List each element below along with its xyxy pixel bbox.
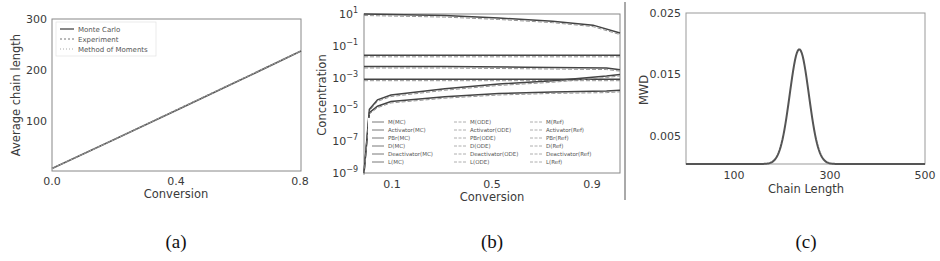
- legend-item: Monte Carlo: [78, 26, 120, 34]
- xlabel-a: Conversion: [144, 187, 208, 201]
- ytick-c: 0.005: [650, 130, 682, 143]
- legend-item: Deactivator(ODE): [470, 151, 518, 157]
- legend-item: M(MC): [388, 119, 406, 125]
- xlabel-c: Chain Length: [768, 182, 844, 196]
- xtick-a: 0.0: [43, 175, 61, 188]
- chart-b: 10110−110−310−510−710−9 0.1 0.5 0.9 Conv…: [315, 2, 625, 253]
- xtick-a: 0.8: [291, 175, 309, 188]
- legend-item: Activator(ODE): [470, 127, 511, 133]
- ylabel-b: Concentration: [315, 54, 329, 135]
- legend-b: M(MC)Activator(MC)PBr(MC)D(MC)Deactivato…: [368, 118, 616, 170]
- caption-b: (b): [481, 231, 503, 253]
- figure: 300 200 100 0.0 0.4 0.8 Conversion Avera…: [0, 0, 940, 261]
- ytick-b: 10−5: [332, 101, 358, 116]
- line-m-mc: [364, 14, 620, 33]
- plot-frame-c: [686, 13, 925, 164]
- series-c: [686, 49, 925, 164]
- ytick-a: 100: [26, 115, 47, 128]
- legend-item: D(MC): [388, 143, 405, 149]
- caption-a: (a): [165, 231, 186, 253]
- chart-c: 0.025 0.015 0.005 100 300 500 Chain Leng…: [637, 7, 936, 253]
- ytick-b: 10−7: [332, 133, 358, 148]
- series-a: [52, 51, 301, 169]
- xtick-c: 500: [915, 169, 936, 182]
- ylabel-a: Average chain length: [9, 34, 23, 156]
- legend-item: Activator(MC): [388, 127, 426, 133]
- legend-item: D(Ref): [546, 143, 563, 149]
- xlabel-b: Conversion: [460, 190, 524, 204]
- legend-item: PBr(MC): [388, 135, 410, 141]
- ytick-a: 300: [26, 13, 47, 26]
- ytick-a: 200: [26, 64, 47, 77]
- ytick-c: 0.015: [650, 68, 682, 81]
- ytick-b: 101: [339, 6, 358, 21]
- legend-item: M(ODE): [470, 119, 491, 125]
- legend-item: Activator(Ref): [546, 127, 584, 133]
- legend-item: D(ODE): [470, 143, 491, 149]
- ytick-b: 10−9: [332, 165, 358, 180]
- ytick-c: 0.025: [650, 7, 682, 20]
- xtick-c: 300: [820, 169, 841, 182]
- legend-item: PBr(ODE): [470, 135, 496, 141]
- ytick-b: 10−1: [332, 38, 358, 53]
- legend-item: L(Ref): [546, 159, 562, 165]
- legend-item: Method of Moments: [78, 46, 148, 54]
- legend-item: Experiment: [78, 36, 119, 44]
- chart-a: 300 200 100 0.0 0.4 0.8 Conversion Avera…: [9, 13, 309, 253]
- yticks-b: 10110−110−310−510−710−9: [332, 6, 358, 180]
- caption-c: (c): [795, 231, 816, 253]
- legend-a: Monte Carlo Experiment Method of Moments: [56, 22, 156, 56]
- xtick-b: 0.9: [583, 178, 601, 191]
- legend-item: Deactivator(MC): [388, 151, 433, 157]
- legend-item: Deactivator(Ref): [546, 151, 591, 157]
- xtick-c: 100: [724, 169, 745, 182]
- ytick-b: 10−3: [332, 70, 358, 85]
- ylabel-c: MWD: [637, 75, 651, 105]
- legend-item: PBr(Ref): [546, 135, 569, 141]
- legend-item: L(ODE): [470, 159, 489, 165]
- legend-item: M(Ref): [546, 119, 564, 125]
- line-mwd: [686, 49, 925, 164]
- xtick-b: 0.1: [383, 178, 401, 191]
- legend-item: L(MC): [388, 159, 404, 165]
